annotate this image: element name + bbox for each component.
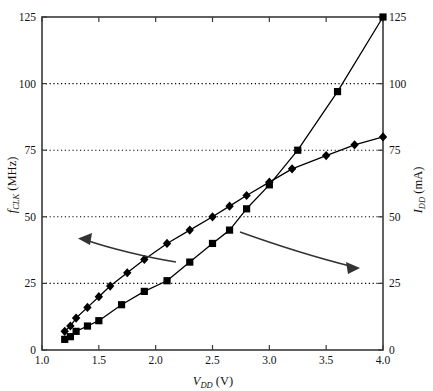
x-tick-labels: 1.01.52.02.53.03.54.0 [35,354,391,366]
axis-ticks [42,17,383,350]
x-tick-label: 3.5 [319,354,334,366]
y-axis-title-right: IDD (mA) [411,167,427,215]
data-point-square [163,277,170,284]
data-point-square [209,240,216,247]
x-tick-label: 1.5 [92,354,107,366]
x-tick-label: 2.5 [205,354,220,366]
right-arrow-head [346,262,360,274]
data-point-square [84,322,91,329]
data-point-square [226,227,233,234]
data-point-diamond [242,191,250,200]
data-point-diamond [322,151,330,160]
series-square [61,13,386,343]
data-point-diamond [379,132,387,141]
y-tick-label-right: 100 [389,78,407,90]
data-point-square [73,328,80,335]
left-arrow-curve [86,240,176,262]
x-tick-label: 3.0 [262,354,277,366]
data-point-diamond [163,239,171,248]
data-point-diamond [288,164,296,173]
x-axis-title: VDD (V) [193,374,233,390]
data-point-diamond [186,226,194,235]
y-tick-label-left: 0 [30,344,36,356]
data-point-square [379,13,386,20]
data-point-square [266,181,273,188]
y-tick-label-left: 25 [25,277,37,289]
series-line [65,17,383,339]
y-tick-label-right: 75 [389,144,401,156]
gridlines [42,84,383,284]
y-tick-label-left: 50 [25,211,37,223]
y-tick-labels-right: 0255075100125 [389,11,407,356]
plot-frame [42,17,383,350]
data-point-square [95,317,102,324]
data-point-diamond [350,140,358,149]
figure-chart: 1.01.52.02.53.03.54.0 0255075100125 0255… [0,0,433,391]
y-tick-label-right: 50 [389,211,401,223]
data-series-layer [61,13,388,343]
left-arrow-head [78,233,92,245]
data-point-square [141,288,148,295]
y-tick-label-left: 100 [19,78,37,90]
y-tick-label-right: 25 [389,277,401,289]
y-tick-label-right: 125 [389,11,407,23]
y-tick-label-left: 125 [19,11,37,23]
data-point-diamond [208,212,216,221]
y-tick-labels-left: 0255075100125 [19,11,37,356]
chart-canvas: 1.01.52.02.53.03.54.0 0255075100125 0255… [0,0,433,391]
data-point-square [118,301,125,308]
y-tick-label-left: 75 [25,144,37,156]
y-tick-label-right: 0 [389,344,395,356]
x-tick-label: 1.0 [35,354,50,366]
data-point-square [294,147,301,154]
y-axis-title-left: fCLK (MHz) [5,157,21,214]
x-tick-label: 2.0 [148,354,163,366]
data-point-diamond [225,202,233,211]
right-arrow-curve [240,232,350,266]
data-point-square [334,88,341,95]
data-point-square [243,205,250,212]
data-point-diamond [123,268,131,277]
data-point-square [186,258,193,265]
